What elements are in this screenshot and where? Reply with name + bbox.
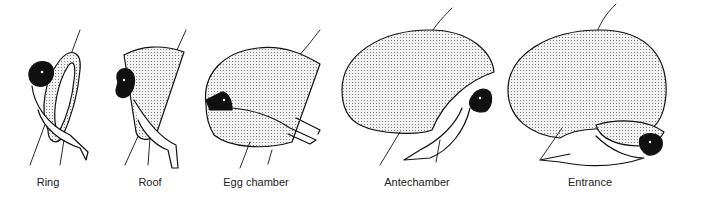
label-ring: Ring [37, 176, 60, 188]
stage-roof-illustration [116, 30, 186, 168]
stage-egg-chamber-illustration [205, 30, 320, 168]
nest-building-diagram [0, 0, 702, 197]
stage-entrance-illustration [508, 4, 666, 165]
stage-ring-illustration [29, 30, 88, 165]
label-antechamber: Antechamber [384, 176, 449, 188]
label-roof: Roof [138, 176, 161, 188]
label-egg-chamber: Egg chamber [223, 176, 288, 188]
stage-antechamber-illustration [342, 8, 494, 165]
label-entrance: Entrance [568, 176, 612, 188]
